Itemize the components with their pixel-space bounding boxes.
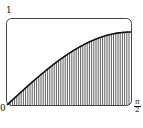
plot-area — [0, 0, 143, 128]
area-hatching — [8, 18, 129, 106]
